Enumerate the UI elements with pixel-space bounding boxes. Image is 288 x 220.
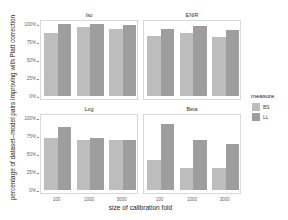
y-tick-mark	[37, 155, 39, 156]
y-tick-label: 0%	[18, 188, 36, 193]
y-tick-mark	[37, 43, 39, 44]
y-tick-mark	[37, 173, 39, 174]
bar-enir-bs-100	[147, 36, 161, 96]
y-tick-mark	[37, 61, 39, 62]
bar-log-bs-100	[44, 138, 58, 190]
x-tick-label: 1000	[79, 197, 99, 202]
legend-label-ll: LL	[263, 114, 269, 120]
bar-iso-ll-100	[58, 24, 72, 96]
bar-beta-ll-1000	[193, 140, 207, 190]
y-tick-label: 25%	[18, 170, 36, 175]
y-tick-label: 75%	[18, 40, 36, 45]
facet-panel-beta	[143, 114, 241, 194]
facet-panel-iso	[40, 20, 138, 100]
facet-title-enir: ENIR	[143, 12, 241, 18]
y-tick-label: 25%	[18, 76, 36, 81]
legend-title: measure	[251, 93, 274, 99]
y-tick-label: 50%	[18, 58, 36, 63]
bar-iso-bs-1000	[77, 27, 91, 96]
bar-enir-ll-100	[161, 29, 175, 96]
facet-title-log: Log	[40, 106, 138, 112]
bar-enir-ll-1000	[193, 26, 207, 96]
facet-panel-log	[40, 114, 138, 194]
bar-beta-ll-100	[161, 124, 175, 190]
y-axis-label: percentage of dataset–model pairs improv…	[9, 14, 16, 202]
facet-title-beta: Beta	[143, 106, 241, 112]
x-tick-label: 100	[47, 197, 67, 202]
bar-beta-bs-3000	[212, 168, 226, 190]
y-tick-label: 100%	[18, 22, 36, 27]
bar-log-bs-3000	[109, 140, 123, 190]
y-tick-mark	[37, 119, 39, 120]
facet-panel-enir	[143, 20, 241, 100]
y-tick-label: 0%	[18, 94, 36, 99]
x-axis-label: size of calibration fold	[40, 204, 241, 211]
y-tick-mark	[37, 25, 39, 26]
bar-beta-bs-1000	[180, 168, 194, 190]
bar-enir-ll-3000	[226, 30, 240, 96]
bar-log-ll-3000	[123, 140, 137, 190]
y-tick-mark	[37, 79, 39, 80]
bar-enir-bs-3000	[212, 37, 226, 96]
legend-key-bs	[252, 103, 260, 111]
legend-label-bs: BS	[263, 104, 270, 110]
bar-iso-bs-100	[44, 33, 58, 96]
bar-beta-bs-100	[147, 160, 161, 190]
y-tick-label: 50%	[18, 152, 36, 157]
y-tick-label: 100%	[18, 116, 36, 121]
bar-iso-bs-3000	[109, 29, 123, 96]
facet-title-iso: Iso	[40, 12, 138, 18]
bar-iso-ll-1000	[90, 24, 104, 96]
bar-log-ll-1000	[90, 138, 104, 190]
legend-key-ll	[252, 113, 260, 121]
y-tick-mark	[37, 137, 39, 138]
bar-log-ll-100	[58, 127, 72, 190]
x-tick-label: 3000	[215, 197, 235, 202]
x-tick-label: 1000	[182, 197, 202, 202]
y-tick-mark	[37, 191, 39, 192]
x-tick-label: 3000	[112, 197, 132, 202]
y-tick-mark	[37, 97, 39, 98]
bar-iso-ll-3000	[123, 25, 137, 96]
bar-log-bs-1000	[77, 140, 91, 190]
x-tick-label: 100	[150, 197, 170, 202]
y-tick-label: 75%	[18, 134, 36, 139]
bar-beta-ll-3000	[226, 144, 240, 190]
bar-enir-bs-1000	[180, 33, 194, 96]
